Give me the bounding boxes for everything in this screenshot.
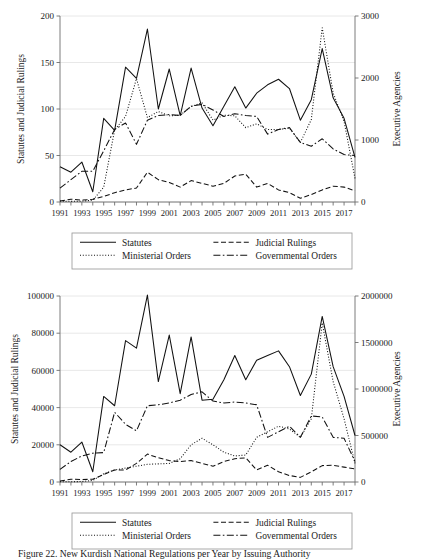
x-axis-tick-label: 1997 (117, 488, 135, 498)
y2-axis-title: Executive Agencies (392, 71, 402, 146)
x-axis-tick-label: 2011 (270, 208, 287, 218)
y-axis-tick-label: 80000 (32, 328, 55, 338)
x-axis-tick-label: 1999 (139, 488, 156, 498)
y-axis-tick-label: 60000 (32, 366, 55, 376)
legend-label-statutes: Statutes (122, 238, 152, 248)
x-axis-tick-label: 2015 (314, 488, 331, 498)
y2-axis-tick-label: 500000 (361, 431, 389, 441)
x-axis-tick-label: 1991 (51, 208, 68, 218)
x-axis-tick-label: 2017 (335, 208, 353, 218)
y-axis-tick-label: 200 (41, 11, 55, 21)
y2-axis-tick-label: 0 (361, 197, 366, 207)
figure-container: 0501001502000100020003000199119931995199… (0, 0, 424, 559)
x-axis-tick-label: 2009 (248, 208, 265, 218)
x-axis-tick-label: 2001 (161, 208, 178, 218)
legend-label-governmental: Governmental Orders (255, 251, 337, 261)
x-axis-tick-label: 2005 (204, 208, 221, 218)
x-axis-tick-label: 2007 (226, 208, 244, 218)
x-axis-tick-label: 2017 (335, 488, 353, 498)
x-axis-tick-label: 1995 (95, 488, 112, 498)
y2-axis-tick-label: 1500000 (361, 338, 393, 348)
x-axis-tick-label: 2009 (248, 488, 265, 498)
y-axis-tick-label: 0 (50, 477, 55, 487)
legend-label-judicial: Judicial Rulings (255, 518, 316, 528)
x-axis-tick-label: 2001 (161, 488, 178, 498)
series-line-governmental-orders (60, 392, 355, 470)
y-axis-title: Statutes and Judicial Rulings (10, 334, 20, 444)
legend-label-ministerial: Ministerial Orders (122, 251, 191, 261)
legend-label-governmental: Governmental Orders (255, 531, 337, 541)
series-line-ministerial-orders (60, 323, 355, 482)
series-line-statutes (60, 295, 355, 472)
y2-axis-tick-label: 1000000 (361, 384, 393, 394)
figure-caption: Figure 22. New Kurdish National Regulati… (0, 548, 424, 559)
y-axis-tick-label: 150 (41, 58, 55, 68)
y-axis-tick-label: 0 (50, 197, 55, 207)
y2-axis-tick-label: 0 (361, 477, 366, 487)
bottom-chart-panel: 0200004000060000800001000000500000100000… (0, 279, 424, 559)
y-axis-tick-label: 50 (45, 151, 55, 161)
x-axis-tick-label: 2005 (204, 488, 221, 498)
series-line-judicial-rulings (60, 454, 355, 481)
y2-axis-title: Executive Agencies (392, 351, 402, 426)
legend-label-ministerial: Ministerial Orders (122, 531, 191, 541)
y-axis-tick-label: 100000 (27, 291, 55, 301)
series-line-statutes (60, 29, 355, 192)
x-axis-tick-label: 2003 (183, 208, 200, 218)
x-axis-tick-label: 1995 (95, 208, 112, 218)
x-axis-tick-label: 2013 (292, 488, 309, 498)
x-axis-tick-label: 2015 (314, 208, 331, 218)
series-line-ministerial-orders (60, 28, 355, 202)
x-axis-tick-label: 1997 (117, 208, 135, 218)
top-chart-svg: 0501001502000100020003000199119931995199… (0, 0, 424, 279)
y-axis-title: Statutes and Judicial Rulings (16, 54, 26, 164)
x-axis-tick-label: 2007 (226, 488, 244, 498)
x-axis-tick-label: 1993 (73, 208, 90, 218)
bottom-chart-svg: 0200004000060000800001000000500000100000… (0, 279, 424, 559)
legend-label-statutes: Statutes (122, 518, 152, 528)
y2-axis-tick-label: 2000000 (361, 291, 393, 301)
y-axis-tick-label: 20000 (32, 440, 55, 450)
x-axis-tick-label: 2013 (292, 208, 309, 218)
x-axis-tick-label: 2011 (270, 488, 287, 498)
x-axis-tick-label: 1993 (73, 488, 90, 498)
legend-label-judicial: Judicial Rulings (255, 238, 316, 248)
x-axis-tick-label: 2003 (183, 488, 200, 498)
x-axis-tick-label: 1991 (51, 488, 68, 498)
y2-axis-tick-label: 1000 (361, 135, 380, 145)
y2-axis-tick-label: 3000 (361, 11, 380, 21)
y-axis-tick-label: 100 (41, 104, 55, 114)
top-chart-panel: 0501001502000100020003000199119931995199… (0, 0, 424, 279)
y2-axis-tick-label: 2000 (361, 73, 380, 83)
x-axis-tick-label: 1999 (139, 208, 156, 218)
y-axis-tick-label: 40000 (32, 403, 55, 413)
